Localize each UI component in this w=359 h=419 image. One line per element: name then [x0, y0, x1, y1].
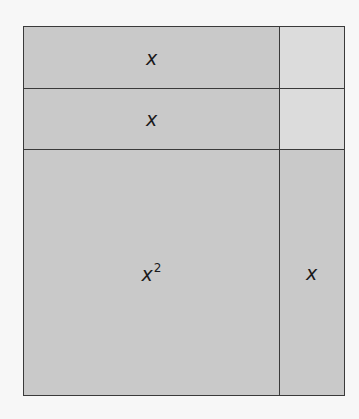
x-label: x [306, 262, 317, 284]
x-label: x [146, 47, 157, 69]
x-label: x [146, 108, 157, 130]
x-strip-right: x [279, 149, 345, 396]
x-strip-top: x [23, 26, 280, 89]
unit-square-top [279, 26, 345, 89]
x-squared-tile: x2 [23, 149, 280, 396]
x-squared-label: x2 [142, 261, 162, 285]
x-strip-middle: x [23, 88, 280, 151]
unit-square-middle [279, 88, 345, 151]
